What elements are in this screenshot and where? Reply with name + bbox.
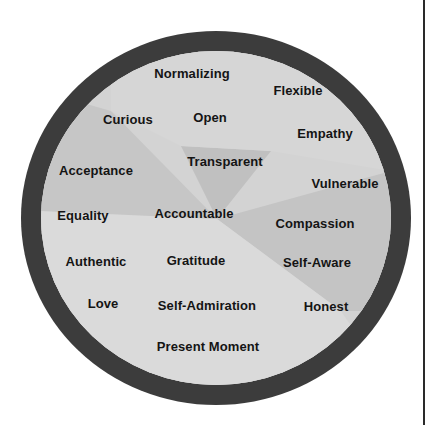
- word-present-moment: Present Moment: [157, 339, 260, 354]
- word-love: Love: [88, 296, 119, 311]
- word-authentic: Authentic: [66, 254, 127, 269]
- word-honest: Honest: [304, 299, 349, 314]
- word-empathy: Empathy: [297, 126, 353, 141]
- word-equality: Equality: [57, 208, 108, 223]
- word-vulnerable: Vulnerable: [312, 176, 379, 191]
- word-acceptance: Acceptance: [59, 163, 133, 178]
- word-transparent: Transparent: [187, 154, 263, 169]
- word-self-admiration: Self-Admiration: [158, 298, 256, 313]
- word-accountable: Accountable: [154, 206, 233, 221]
- word-open: Open: [193, 110, 227, 125]
- word-compassion: Compassion: [275, 216, 354, 231]
- word-flexible: Flexible: [273, 83, 322, 98]
- word-self-aware: Self-Aware: [283, 255, 351, 270]
- word-normalizing: Normalizing: [154, 66, 230, 81]
- word-gratitude: Gratitude: [167, 253, 226, 268]
- word-curious: Curious: [103, 112, 153, 127]
